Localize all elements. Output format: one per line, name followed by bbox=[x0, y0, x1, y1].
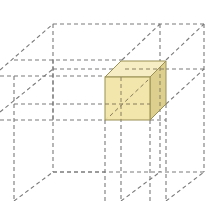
depth-edge-top-left bbox=[0, 24, 53, 70]
cube-front-face bbox=[105, 77, 150, 120]
depth-edge-top-right bbox=[166, 24, 204, 60]
wireframe-diagram bbox=[0, 0, 211, 201]
highlighted-cube bbox=[105, 61, 166, 120]
depth-edge-bottom-right bbox=[166, 172, 204, 201]
dashed-wireframe bbox=[0, 24, 204, 201]
depth-edge-bottom-left bbox=[14, 172, 53, 201]
depth-edge-mid-right bbox=[166, 69, 204, 104]
depth-edge-top-mid bbox=[122, 24, 160, 60]
depth-edge-bottom-mid bbox=[121, 172, 160, 201]
